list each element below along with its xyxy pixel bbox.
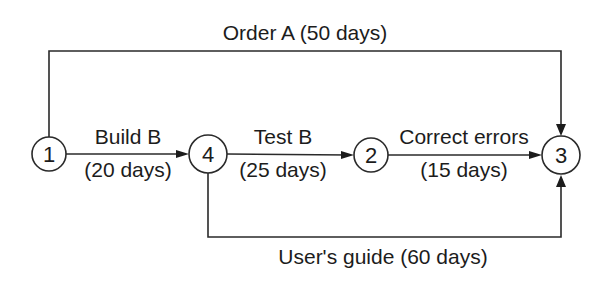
edge-activity-test-b: Test B: [254, 125, 312, 148]
arrowhead-icon: [556, 175, 566, 187]
edge-users-guide: User's guide (60 days): [208, 173, 566, 268]
edge-label-users-guide: User's guide (60 days): [278, 245, 487, 268]
node-label: 3: [555, 143, 567, 168]
edge-duration-test-b: (25 days): [239, 158, 327, 181]
node-label: 2: [365, 143, 377, 168]
arrowhead-icon: [556, 124, 566, 136]
arrowhead-icon: [176, 150, 189, 158]
edge-activity-correct-errors: Correct errors: [399, 125, 529, 148]
edge-duration-build-b: (20 days): [84, 158, 172, 181]
edge-label-order-a: Order A (50 days): [223, 21, 388, 44]
node-label: 4: [202, 142, 214, 167]
node-label: 1: [43, 142, 55, 167]
edge-correct-errors: Correct errors (15 days): [388, 125, 542, 181]
node-1: 1: [32, 137, 66, 171]
arrowhead-icon: [341, 151, 354, 159]
edge-duration-correct-errors: (15 days): [420, 158, 508, 181]
edge-order-a: Order A (50 days): [49, 21, 566, 137]
arrowhead-icon: [529, 151, 542, 159]
edge-activity-build-b: Build B: [95, 125, 162, 148]
node-2: 2: [354, 138, 388, 172]
node-4: 4: [189, 135, 227, 173]
edge-build-b: Build B (20 days): [66, 125, 189, 181]
project-network-diagram: Order A (50 days) Build B (20 days) Test…: [0, 0, 606, 282]
node-3: 3: [542, 136, 580, 174]
edge-test-b: Test B (25 days): [227, 125, 354, 181]
